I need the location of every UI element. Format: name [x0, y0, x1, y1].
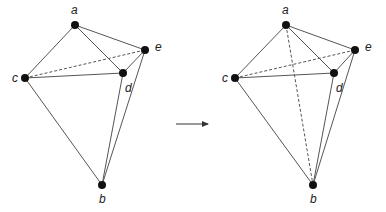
left-node-e [141, 46, 149, 54]
left-edge-ae [75, 25, 145, 50]
right-label-c: c [222, 71, 228, 85]
left-label-e: e [155, 40, 162, 54]
right-label-d: d [336, 81, 343, 95]
left-node-b [98, 181, 106, 189]
right-edge-ac [235, 25, 286, 78]
right-label-a: a [282, 3, 289, 17]
left-node-c [21, 74, 29, 82]
right-dashed-edge-ab [286, 25, 313, 185]
left-edge-ac [25, 25, 75, 78]
left-node-a [71, 21, 79, 29]
right-node-d [330, 69, 338, 77]
right-label-e: e [365, 40, 372, 54]
left-label-d: d [125, 81, 132, 95]
left-dashed-edge-ce [25, 50, 145, 78]
right-node-a [282, 21, 290, 29]
right-node-e [351, 46, 359, 54]
right-node-c [231, 74, 239, 82]
left-edge-cd [25, 73, 123, 78]
right-edge-cd [235, 73, 334, 78]
right-node-b [309, 181, 317, 189]
left-node-d [119, 69, 127, 77]
left-label-c: c [12, 71, 18, 85]
left-graph: abcde [12, 3, 162, 206]
right-edge-ae [286, 25, 355, 50]
left-edge-ad [75, 25, 123, 73]
graph-diagram: abcde abcde [0, 0, 386, 212]
right-label-b: b [310, 192, 317, 206]
left-edge-cb [25, 78, 102, 185]
left-label-a: a [71, 3, 78, 17]
right-graph: abcde [222, 3, 372, 206]
right-edge-cb [235, 78, 313, 185]
left-label-b: b [99, 192, 106, 206]
